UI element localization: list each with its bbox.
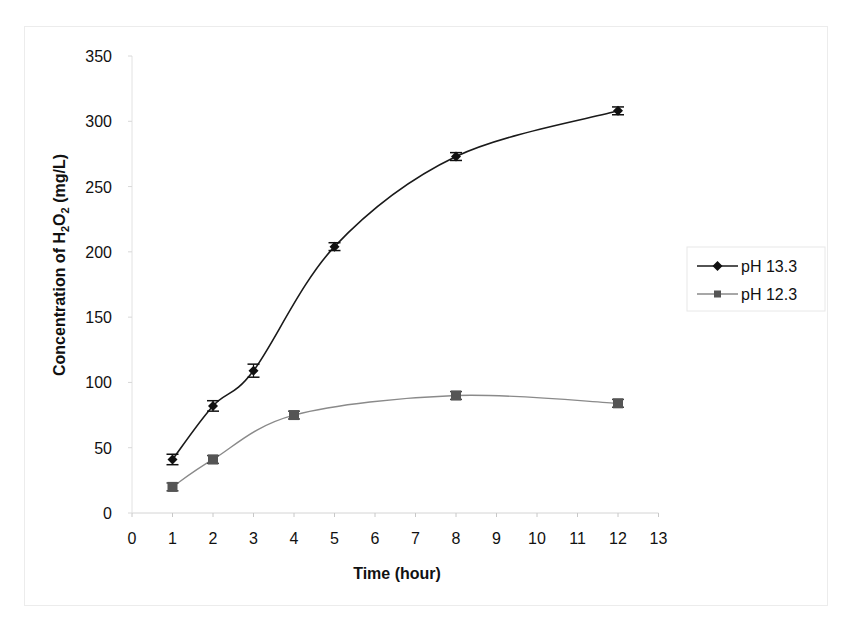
x-tick-label: 1 [168, 530, 177, 547]
square-marker [168, 482, 178, 492]
x-tick-label: 10 [528, 530, 546, 547]
square-marker [208, 454, 218, 464]
x-tick-label: 13 [650, 530, 668, 547]
y-tick-label: 150 [85, 309, 112, 326]
series-ph-12-3 [167, 390, 625, 491]
x-tick-label: 8 [452, 530, 461, 547]
legend: pH 13.3 pH 12.3 [687, 247, 825, 311]
legend-label: pH 12.3 [741, 286, 797, 303]
x-tick-label: 9 [492, 530, 501, 547]
y-tick-label: 350 [85, 48, 112, 65]
y-tick-label: 0 [103, 505, 112, 522]
y-tick-label: 200 [85, 244, 112, 261]
y-tick-label: 300 [85, 113, 112, 130]
x-tick-label: 2 [209, 530, 218, 547]
plot-area [167, 106, 625, 492]
x-tick-label: 5 [330, 530, 339, 547]
square-marker [451, 390, 461, 400]
y-tick-label: 50 [94, 440, 112, 457]
x-tick-label: 6 [371, 530, 380, 547]
line-chart: 012345678910111213050100150200250300350 … [0, 0, 852, 634]
x-tick-label: 3 [249, 530, 258, 547]
x-tick-label: 11 [569, 530, 586, 547]
x-tick-label: 7 [411, 530, 420, 547]
x-tick-label: 4 [290, 530, 299, 547]
legend-label: pH 13.3 [741, 258, 797, 275]
series-ph-13-3 [167, 106, 625, 465]
axes: 012345678910111213050100150200250300350 [85, 48, 667, 547]
x-tick-label: 0 [128, 530, 137, 547]
square-marker [289, 410, 299, 420]
x-axis-title: Time (hour) [353, 565, 441, 582]
y-tick-label: 100 [85, 374, 112, 391]
x-tick-label: 12 [609, 530, 627, 547]
y-axis-title: Concentration of H2O2 (mg/L) [51, 154, 71, 376]
square-marker-icon [714, 291, 721, 298]
y-tick-label: 250 [85, 179, 112, 196]
square-marker [613, 398, 623, 408]
